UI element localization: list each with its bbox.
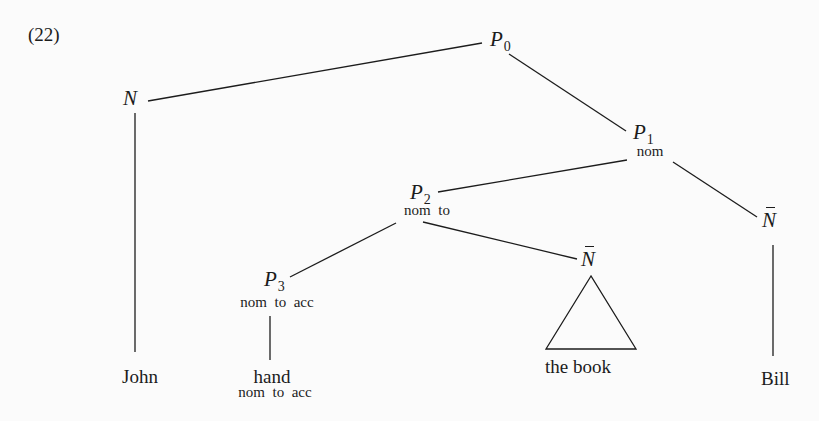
node-p3-features: nom to acc [222,295,332,310]
edge-p0-p1 [509,54,626,131]
node-nbar-bill: N [762,210,776,231]
node-p1-cat: P [633,120,646,144]
node-p2-features: nom to [387,203,467,218]
node-p2: P2 [410,182,431,203]
edge-p2-p3 [290,223,396,277]
node-nbar-book: N [581,249,595,270]
node-p0-cat: P [490,27,503,51]
leaf-the-book: the book [545,357,611,376]
edge-p0-n [148,43,482,101]
node-nbar-book-cat: N [581,249,595,270]
node-p1-features: nom [627,144,673,159]
node-p3: P3 [264,269,285,290]
node-p1: P1 [633,122,654,143]
leaf-bill: Bill [761,369,790,388]
edge-p2-nbar-book [423,222,577,259]
triangle-the-book [546,276,636,349]
node-n-john: N [123,88,137,109]
node-p0: P0 [490,29,511,50]
leaf-john: John [122,367,158,386]
node-p3-sub: 3 [278,279,285,294]
node-p2-cat: P [410,180,423,204]
edge-p1-nbar-bill [673,162,757,217]
leaf-hand-features: nom to acc [219,385,331,400]
syntax-tree-diagram: (22) P0 N P1 nom P2 nom to P3 nom to acc… [0,0,819,421]
edge-p1-p2 [438,160,627,192]
example-number: (22) [28,25,60,44]
node-p0-sub: 0 [504,39,511,54]
node-nbar-bill-cat: N [762,210,776,231]
node-p3-cat: P [264,267,277,291]
